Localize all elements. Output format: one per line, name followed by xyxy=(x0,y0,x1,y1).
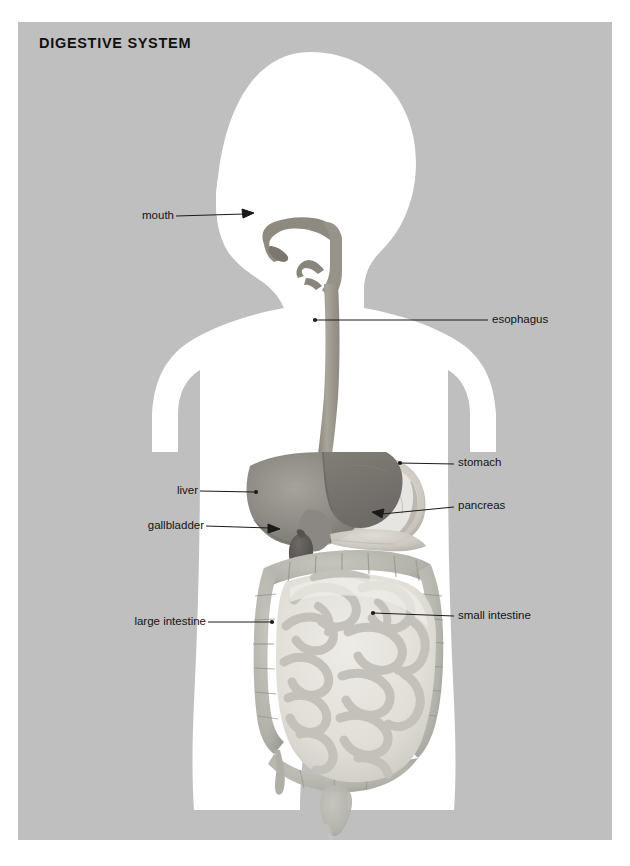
digestive-system-illustration xyxy=(18,22,612,840)
label-small-intestine: small intestine xyxy=(458,610,531,622)
label-stomach: stomach xyxy=(458,457,501,469)
label-large-intestine: large intestine xyxy=(134,616,206,628)
label-liver: liver xyxy=(177,485,198,497)
small-intestine-organ xyxy=(276,573,436,782)
label-gallbladder: gallbladder xyxy=(148,520,204,532)
label-pancreas: pancreas xyxy=(458,500,505,512)
rectum-organ xyxy=(320,785,352,840)
label-esophagus: esophagus xyxy=(492,314,548,326)
diagram-page: DIGESTIVE SYSTEM xyxy=(0,0,630,866)
label-mouth: mouth xyxy=(142,210,174,222)
diagram-panel: DIGESTIVE SYSTEM xyxy=(18,22,612,840)
